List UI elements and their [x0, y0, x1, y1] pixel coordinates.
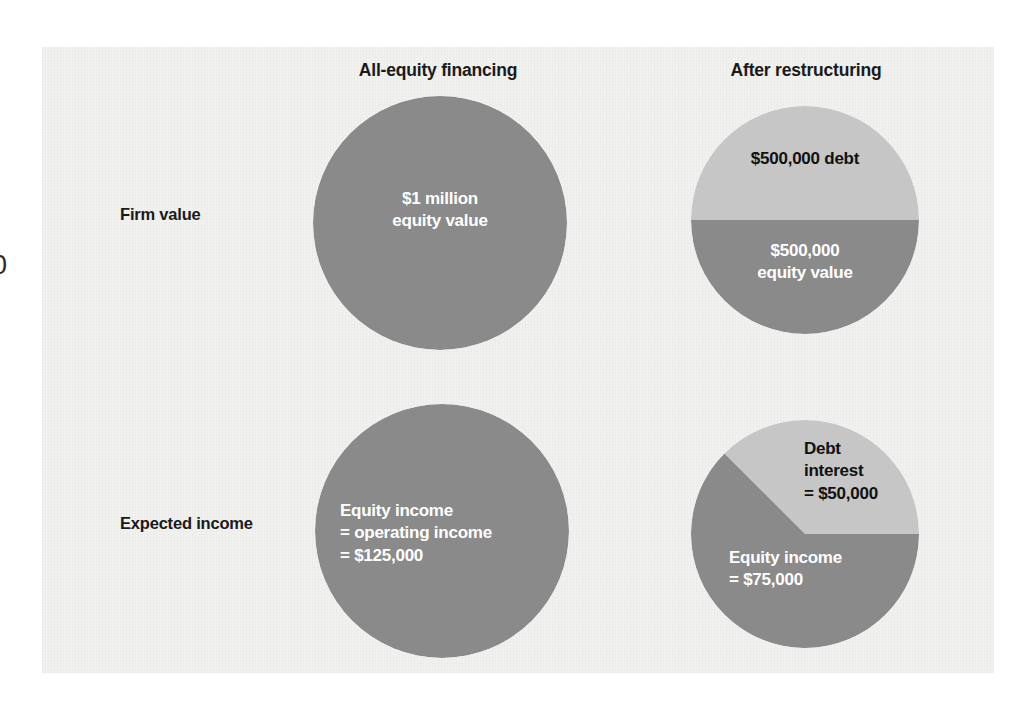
column-title-all-equity-financing: All-equity financing	[359, 60, 517, 81]
row-label-firm-value: Firm value	[120, 205, 201, 224]
pie-label-line-2: equity value	[392, 210, 487, 232]
pie-label-equity-value: $1 million equity value	[392, 188, 487, 233]
pie-chart-expected-income-all-equity: Equity income = operating income = $125,…	[315, 404, 569, 658]
pie-label-line-2: = operating income	[340, 522, 492, 544]
pie-chart-firm-value-after-restructuring: $500,000 debt $500,000 equity value	[691, 106, 919, 334]
pie-label-debt-line-3: = $50,000	[804, 483, 878, 505]
pie-label-equity-income: Equity income = operating income = $125,…	[340, 500, 492, 567]
pie-label-debt-line-1: Debt	[804, 438, 878, 460]
pie-label-equity-value: $500,000 equity value	[757, 240, 852, 285]
pie-label-debt-line-1: $500,000 debt	[751, 148, 859, 170]
column-title-after-restructuring: After restructuring	[731, 60, 882, 81]
row-label-expected-income: Expected income	[120, 514, 253, 533]
pie-slices-firm-value-after-restructuring	[691, 106, 919, 334]
pie-label-equity-income: Equity income = $75,000	[729, 547, 842, 592]
pie-label-debt: $500,000 debt	[751, 148, 859, 170]
pie-label-debt-interest: Debt interest = $50,000	[804, 438, 878, 505]
pie-label-equity-line-1: Equity income	[729, 547, 842, 569]
figure-root: 0 All-equity financing After restructuri…	[0, 0, 1036, 718]
pie-label-line-1: $1 million	[392, 188, 487, 210]
page-number-fragment: 0	[0, 252, 7, 279]
pie-label-debt-line-2: interest	[804, 460, 878, 482]
pie-label-equity-line-2: equity value	[757, 262, 852, 284]
pie-chart-expected-income-after-restructuring: Debt interest = $50,000 Equity income = …	[691, 420, 919, 648]
pie-label-equity-line-1: $500,000	[757, 240, 852, 262]
pie-chart-firm-value-all-equity: $1 million equity value	[313, 96, 567, 350]
pie-label-line-3: = $125,000	[340, 545, 492, 567]
pie-label-line-1: Equity income	[340, 500, 492, 522]
pie-label-equity-line-2: = $75,000	[729, 569, 842, 591]
